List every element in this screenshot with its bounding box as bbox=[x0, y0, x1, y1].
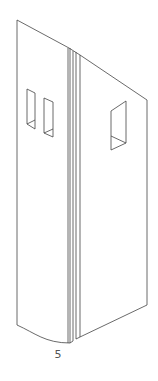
left-panel bbox=[17, 20, 70, 343]
wall-panel-drawing bbox=[0, 0, 158, 381]
right-panel bbox=[80, 55, 147, 337]
left-window-2 bbox=[44, 98, 53, 137]
figure-label: 5 bbox=[50, 348, 66, 361]
center-spine bbox=[68, 48, 80, 343]
left-window-1 bbox=[27, 89, 35, 129]
right-window bbox=[111, 101, 126, 150]
